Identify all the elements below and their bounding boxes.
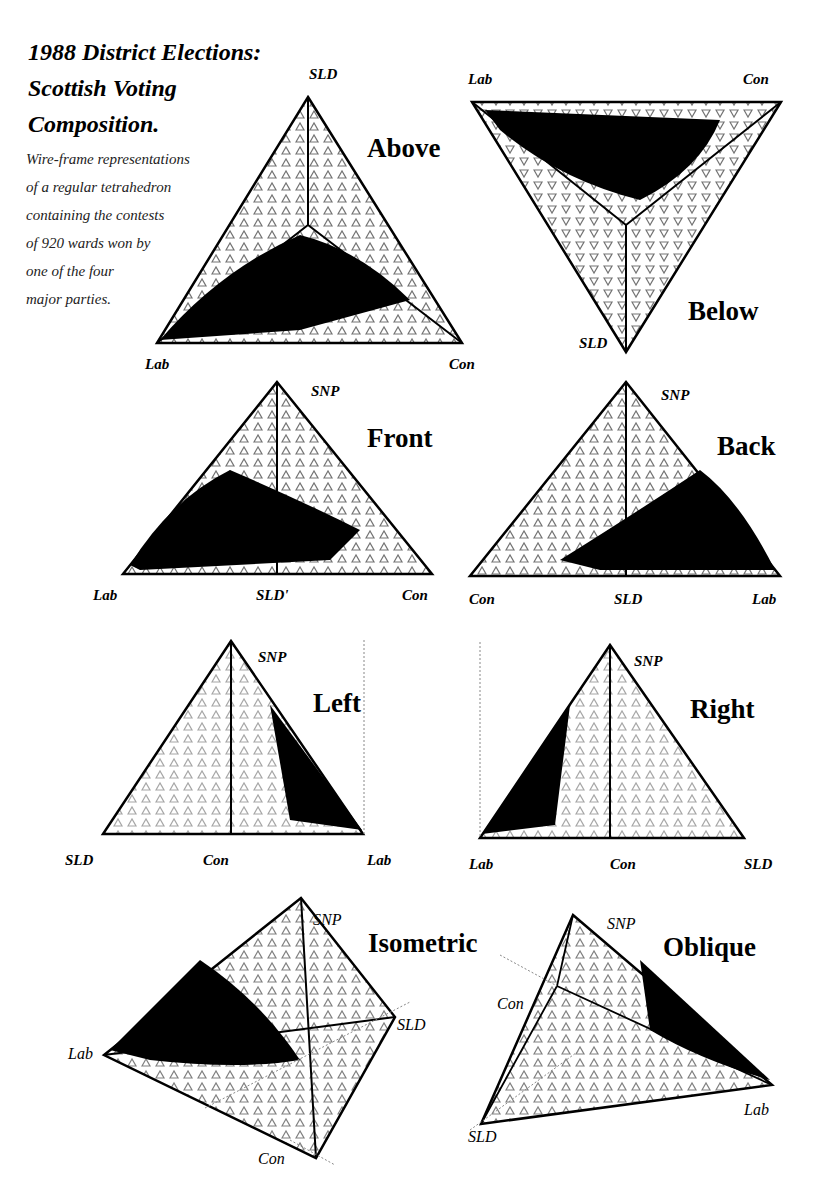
vertex-label: Con	[469, 591, 495, 608]
vertex-label: Con	[497, 995, 524, 1013]
vertex-label: Con	[743, 71, 769, 88]
vertex-label: SLD	[579, 335, 607, 352]
vertex-label: SNP	[313, 911, 341, 929]
vertex-label: Lab	[93, 587, 117, 604]
vertex-label: SLD	[468, 1128, 496, 1146]
vertex-label: Lab	[752, 591, 776, 608]
panel-isometric	[104, 898, 410, 1165]
view-label-below: Below	[688, 296, 759, 327]
view-label-above: Above	[367, 133, 441, 164]
vertex-label: SNP	[607, 915, 635, 933]
vertex-label: Lab	[68, 1045, 93, 1063]
vertex-label: SLD	[309, 66, 337, 83]
panel-back	[470, 382, 780, 576]
view-label-oblique: Oblique	[663, 932, 756, 963]
vertex-label: Lab	[367, 852, 391, 869]
view-label-right: Right	[690, 694, 755, 725]
vertex-label: Con	[449, 356, 475, 373]
panel-front	[123, 382, 432, 574]
vertex-label: SNP	[311, 383, 339, 400]
vertex-label: SLD	[614, 591, 642, 608]
vertex-label: Con	[610, 856, 636, 873]
vertex-label: Con	[402, 587, 428, 604]
vertex-label: Con	[203, 852, 229, 869]
view-label-left: Left	[313, 688, 361, 719]
vertex-label: SNP	[634, 653, 662, 670]
panel-left	[103, 640, 364, 834]
view-label-isometric: Isometric	[368, 928, 477, 959]
vertex-label: Lab	[744, 1101, 769, 1119]
vertex-label: SLD	[397, 1016, 425, 1034]
panel-right	[480, 642, 744, 838]
vertex-label: SLD	[65, 852, 93, 869]
vertex-label: SNP	[661, 387, 689, 404]
vertex-label: Lab	[468, 71, 492, 88]
vertex-label: SLD'	[256, 587, 289, 604]
view-label-back: Back	[717, 431, 776, 462]
vertex-label: Con	[258, 1150, 285, 1168]
vertex-label: Lab	[469, 856, 493, 873]
view-label-front: Front	[367, 423, 433, 454]
vertex-label: SLD	[744, 856, 772, 873]
vertex-label: SNP	[258, 649, 286, 666]
vertex-label: Lab	[145, 356, 169, 373]
